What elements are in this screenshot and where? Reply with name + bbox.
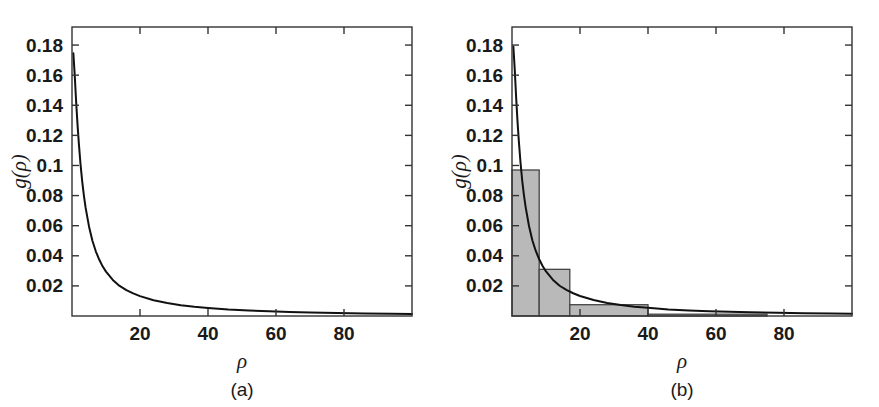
x-axis-title: ρ [236, 349, 247, 373]
figure-container: 0.020.040.060.080.10.120.140.160.1820406… [0, 0, 879, 407]
histogram-bar [539, 269, 570, 316]
x-tick-label: 60 [265, 323, 286, 344]
y-tick-label: 0.06 [466, 215, 503, 236]
panel-a-plot: 0.020.040.060.080.10.120.140.160.1820406… [0, 0, 439, 407]
histogram-bar [512, 170, 539, 316]
histogram-bars [512, 170, 767, 316]
x-tick-label: 60 [705, 323, 726, 344]
panel-a: 0.020.040.060.080.10.120.140.160.1820406… [0, 0, 439, 407]
y-axis-title: g(ρ) [7, 154, 31, 189]
x-axis: 20406080 [569, 27, 794, 344]
panel-caption: (b) [670, 379, 693, 400]
y-tick-label: 0.12 [26, 125, 63, 146]
y-tick-label: 0.04 [466, 245, 503, 266]
x-tick-label: 80 [333, 323, 354, 344]
y-tick-label: 0.16 [466, 65, 503, 86]
y-tick-label: 0.02 [466, 275, 503, 296]
y-tick-label: 0.14 [26, 95, 63, 116]
x-axis-title: ρ [676, 349, 687, 373]
y-tick-label: 0.12 [466, 125, 503, 146]
panel-b-plot: 0.020.040.060.080.10.120.140.160.1820406… [440, 0, 879, 407]
y-tick-label: 0.14 [466, 95, 503, 116]
y-tick-label: 0.18 [466, 35, 503, 56]
y-tick-label: 0.04 [26, 245, 63, 266]
y-axis: 0.020.040.060.080.10.120.140.160.18 [26, 35, 412, 297]
x-tick-label: 80 [773, 323, 794, 344]
plot-frame [72, 27, 412, 316]
y-tick-label: 0.18 [26, 35, 63, 56]
x-axis: 20406080 [129, 27, 354, 344]
data-curve [73, 53, 412, 314]
x-tick-label: 20 [129, 323, 150, 344]
panel-b: 0.020.040.060.080.10.120.140.160.1820406… [440, 0, 879, 407]
y-tick-label: 0.06 [26, 215, 63, 236]
x-tick-label: 40 [637, 323, 658, 344]
y-tick-label: 0.1 [37, 155, 64, 176]
x-tick-label: 40 [197, 323, 218, 344]
y-tick-label: 0.08 [26, 185, 63, 206]
y-tick-label: 0.08 [466, 185, 503, 206]
panel-caption: (a) [230, 379, 253, 400]
x-tick-label: 20 [569, 323, 590, 344]
y-axis-title: g(ρ) [447, 154, 471, 189]
y-tick-label: 0.1 [477, 155, 504, 176]
y-tick-label: 0.02 [26, 275, 63, 296]
y-tick-label: 0.16 [26, 65, 63, 86]
